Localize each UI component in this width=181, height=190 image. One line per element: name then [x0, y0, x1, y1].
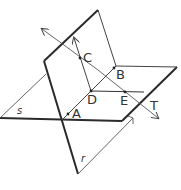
- label-e: E: [120, 93, 128, 108]
- diagram-canvas: C B D E A T s r: [0, 0, 181, 190]
- point-b: [113, 67, 116, 70]
- label-plane-r: r: [81, 153, 86, 164]
- label-d: D: [87, 92, 97, 107]
- point-c: [79, 57, 82, 60]
- label-a: A: [72, 106, 81, 121]
- label-t: T: [149, 98, 158, 113]
- label-plane-s: s: [17, 105, 22, 116]
- point-a: [67, 113, 70, 116]
- planes-diagram: C B D E A T s r: [0, 0, 181, 190]
- line-de: [91, 91, 144, 92]
- label-b: B: [116, 67, 125, 82]
- label-c: C: [83, 50, 92, 65]
